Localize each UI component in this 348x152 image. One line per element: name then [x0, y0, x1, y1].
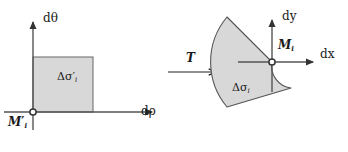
- right-panel-graphics: [211, 17, 313, 107]
- origin-marker-right: [269, 59, 275, 65]
- rectangle-region: [33, 57, 93, 112]
- region-label-left: Δσ′i: [57, 71, 77, 84]
- region-label-right-sub: i: [247, 87, 249, 95]
- origin-label-left-text: M: [8, 115, 21, 129]
- dx-axis-label: dx: [320, 48, 334, 60]
- region-label-right: Δσi: [232, 82, 250, 95]
- origin-label-right-sub: i: [291, 44, 294, 53]
- d-theta-axis-label: dθ: [43, 12, 58, 24]
- d-rho-axis-label: dρ: [141, 105, 156, 117]
- origin-label-left-sub: i: [24, 121, 27, 130]
- dy-axis-label: dy: [282, 10, 296, 22]
- region-label-left-text: Δσ: [57, 70, 72, 83]
- origin-label-right: Mi: [278, 39, 294, 52]
- region-label-right-text: Δσ: [232, 81, 247, 94]
- transformation-figure: dθ dρ Δσ′i M′i T dy dx Δσi Mi: [0, 0, 348, 152]
- origin-label-right-text: M: [278, 38, 291, 52]
- left-panel-graphics: [4, 22, 152, 130]
- origin-marker-left: [30, 109, 36, 115]
- transformation-label: T: [186, 52, 195, 64]
- region-label-left-sub: i: [75, 76, 77, 84]
- origin-label-left: M′i: [8, 116, 27, 129]
